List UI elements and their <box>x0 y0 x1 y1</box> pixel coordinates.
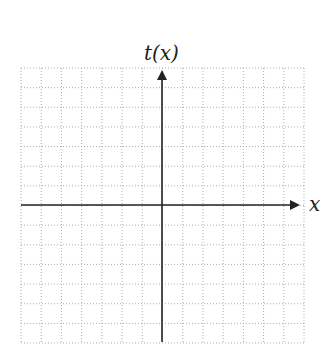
x-axis-label: x <box>309 192 320 216</box>
coordinate-plane: t(x) x <box>0 0 335 358</box>
y-axis-label: t(x) <box>144 41 179 65</box>
